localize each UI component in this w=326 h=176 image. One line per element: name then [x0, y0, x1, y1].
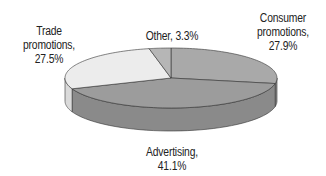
pie-top-faces: [65, 48, 277, 108]
label-line: promotions,: [251, 25, 315, 39]
label-line: promotions,: [21, 38, 78, 52]
label-line: 41.1%: [142, 159, 202, 173]
label-other: Other, 3.3%: [139, 29, 204, 43]
label-line: Advertising,: [142, 145, 202, 159]
label-line: 27.5%: [21, 52, 78, 66]
label-advertising: Advertising, 41.1%: [142, 145, 202, 173]
label-line: Consumer: [251, 11, 315, 25]
label-line: 27.9%: [251, 39, 315, 53]
label-line: Trade: [21, 24, 78, 38]
label-trade-promotions: Trade promotions, 27.5%: [21, 24, 78, 66]
label-line: Other, 3.3%: [139, 29, 204, 43]
label-consumer-promotions: Consumer promotions, 27.9%: [251, 11, 315, 53]
pie-slice-consumer-promotions: [171, 48, 277, 84]
